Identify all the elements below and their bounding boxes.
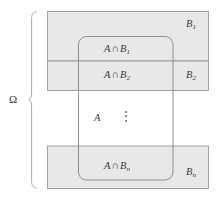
intersection-a-b2-label: A∩B2 <box>104 70 130 82</box>
intersection-a-bn-label: A∩Bn <box>104 161 130 173</box>
block-b2-label: B2 <box>186 70 196 82</box>
set-partition-diagram: Ω B1 A∩B1 A∩B2 B2 A ⋮ A∩Bn Bn <box>0 0 218 202</box>
event-a-label: A <box>94 113 100 124</box>
sample-space-label: Ω <box>9 94 17 105</box>
block-b1-label: B1 <box>186 19 196 31</box>
vertical-ellipsis: ⋮ <box>120 110 132 122</box>
omega-brace <box>29 12 37 189</box>
intersection-a-b1-label: A∩B1 <box>104 44 130 56</box>
block-bn-label: Bn <box>186 167 196 179</box>
